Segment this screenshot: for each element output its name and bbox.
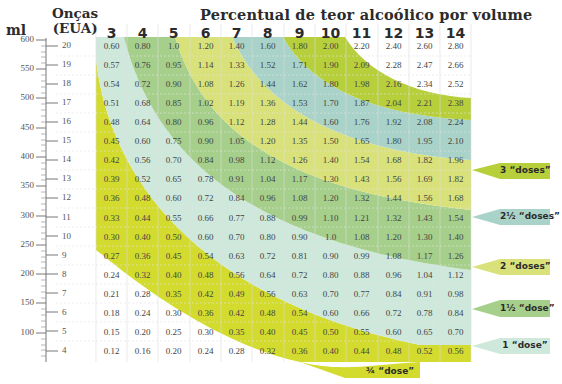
table-cell: 1.20 — [190, 40, 221, 52]
table-cell: 0.80 — [252, 231, 283, 243]
column-header: 7 — [221, 25, 252, 41]
column-header: 5 — [158, 25, 189, 41]
table-cell: 0.96 — [190, 116, 221, 128]
table-cell: 0.57 — [96, 59, 127, 71]
table-cell: 1.69 — [409, 173, 440, 185]
table-cell: 2.20 — [346, 40, 377, 52]
table-cell: 0.56 — [221, 269, 252, 281]
ounce-label: 4 — [62, 345, 67, 355]
table-cell: 2.09 — [346, 59, 377, 71]
ml-tick: 350 — [4, 180, 34, 190]
table-cell: 0.49 — [221, 288, 252, 300]
table-cell: 1.08 — [284, 192, 315, 204]
table-cell: 0.25 — [158, 326, 189, 338]
table-cell: 0.20 — [127, 326, 158, 338]
table-cell: 1.60 — [315, 116, 346, 128]
table-cell: 0.75 — [158, 135, 189, 147]
ounce-label: 6 — [62, 307, 67, 317]
table-cell: 1.44 — [378, 192, 409, 204]
table-cell: 0.32 — [252, 345, 283, 357]
table-cell: 2.80 — [440, 40, 471, 52]
table-cell: 0.64 — [127, 116, 158, 128]
table-cell: 0.60 — [127, 135, 158, 147]
table-cell: 1.20 — [252, 135, 283, 147]
table-cell: 1.44 — [284, 116, 315, 128]
table-cell: 0.55 — [158, 212, 189, 224]
dose-label-2: 2 “doses” — [500, 261, 550, 271]
table-cell: 1.54 — [440, 212, 471, 224]
table-cell: 0.48 — [190, 269, 221, 281]
table-cell: 0.54 — [284, 307, 315, 319]
table-cell: 2.10 — [440, 135, 471, 147]
table-cell: 0.70 — [158, 154, 189, 166]
table-cell: 1.32 — [346, 192, 377, 204]
table-cell: 0.55 — [346, 326, 377, 338]
table-cell: 1.80 — [284, 40, 315, 52]
table-cell: 1.0 — [315, 231, 346, 243]
ounce-label: 16 — [62, 116, 71, 126]
table-cell: 1.35 — [284, 135, 315, 147]
table-cell: 2.60 — [409, 40, 440, 52]
table-cell: 0.45 — [158, 250, 189, 262]
table-cell: 0.44 — [346, 345, 377, 357]
column-header: 14 — [440, 25, 471, 41]
ml-tick: 300 — [4, 210, 34, 220]
ounce-label: 19 — [62, 59, 71, 69]
column-header: 3 — [96, 25, 127, 41]
table-cell: 0.80 — [158, 116, 189, 128]
table-cell: 2.34 — [409, 78, 440, 90]
table-cell: 0.21 — [96, 288, 127, 300]
table-cell: 2.66 — [440, 59, 471, 71]
table-cell: 0.30 — [96, 231, 127, 243]
table-cell: 0.51 — [96, 97, 127, 109]
table-cell: 1.62 — [284, 78, 315, 90]
table-cell: 0.20 — [158, 345, 189, 357]
table-cell: 1.12 — [221, 116, 252, 128]
table-cell: 1.19 — [221, 97, 252, 109]
table-cell: 0.78 — [409, 307, 440, 319]
table-cell: 0.56 — [440, 345, 471, 357]
table-cell: 0.50 — [315, 326, 346, 338]
table-cell: 1.14 — [190, 59, 221, 71]
table-cell: 0.36 — [284, 345, 315, 357]
table-cell: 0.56 — [252, 288, 283, 300]
table-cell: 0.24 — [127, 307, 158, 319]
table-cell: 1.20 — [315, 192, 346, 204]
table-cell: 0.99 — [346, 250, 377, 262]
table-cell: 1.40 — [440, 231, 471, 243]
table-cell: 1.43 — [409, 212, 440, 224]
table-cell: 1.08 — [346, 231, 377, 243]
table-cell: 0.70 — [221, 231, 252, 243]
table-cell: 0.70 — [440, 326, 471, 338]
dose-label-3: 3 “doses” — [500, 165, 550, 175]
ounce-label: 17 — [62, 97, 71, 107]
table-cell: 0.15 — [96, 326, 127, 338]
table-cell: 1.71 — [284, 59, 315, 71]
table-cell: 1.30 — [409, 231, 440, 243]
table-cell: 1.68 — [440, 192, 471, 204]
ounce-label: 10 — [62, 231, 71, 241]
table-cell: 0.45 — [284, 326, 315, 338]
table-cell: 0.35 — [221, 326, 252, 338]
table-cell: 1.44 — [252, 78, 283, 90]
table-cell: 1.33 — [221, 59, 252, 71]
ounce-label: 14 — [62, 154, 71, 164]
table-cell: 1.87 — [346, 97, 377, 109]
table-cell: 0.27 — [96, 250, 127, 262]
table-cell: 0.39 — [96, 173, 127, 185]
table-cell: 2.40 — [378, 40, 409, 52]
ml-tick: 200 — [4, 268, 34, 278]
chart-title: Percentual de teor alcoólico por volume — [200, 6, 533, 23]
table-cell: 0.68 — [127, 97, 158, 109]
table-cell: 0.52 — [409, 345, 440, 357]
table-cell: 0.36 — [127, 250, 158, 262]
table-cell: 1.21 — [346, 212, 377, 224]
table-cell: 1.56 — [409, 192, 440, 204]
table-cell: 1.28 — [252, 116, 283, 128]
ruler-minor-ticks — [41, 46, 46, 356]
ounce-label: 5 — [62, 326, 67, 336]
table-cell: 0.28 — [221, 345, 252, 357]
table-cell: 0.60 — [96, 40, 127, 52]
table-cell: 1.95 — [409, 135, 440, 147]
table-cell: 2.24 — [440, 116, 471, 128]
